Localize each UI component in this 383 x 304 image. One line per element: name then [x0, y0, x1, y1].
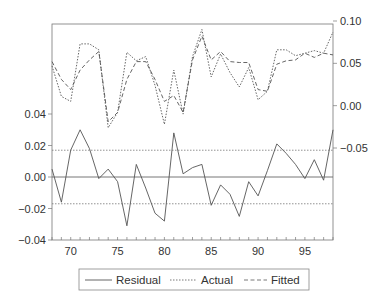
y-left-tick-label: −0.04 [18, 234, 46, 246]
x-tick-label: 95 [299, 245, 311, 257]
x-tick-label: 70 [65, 245, 77, 257]
y-right-tick-label: 0.05 [340, 57, 361, 69]
legend-fitted-label: Fitted [271, 274, 300, 286]
y-left-tick-label: 0.02 [25, 140, 46, 152]
x-tick-label: 90 [252, 245, 264, 257]
y-right-tick-label: 0.00 [340, 100, 361, 112]
y-left-tick-label: −0.02 [18, 203, 46, 215]
legend-actual-label: Actual [201, 274, 233, 286]
y-axis-left: 0.040.020.00−0.02−0.04 [18, 108, 52, 246]
y-right-tick-label: 0.10 [340, 15, 361, 27]
y-axis-right: 0.100.050.00−0.05 [333, 15, 368, 154]
x-tick-label: 80 [158, 245, 170, 257]
legend-residual-label: Residual [116, 274, 161, 286]
series-layer [52, 30, 333, 226]
plot-frame [52, 24, 333, 240]
residual-actual-fitted-chart: 707580859095 0.040.020.00−0.02−0.04 0.10… [0, 0, 383, 304]
y-left-tick-label: 0.04 [25, 108, 46, 120]
series-actual-line [52, 30, 333, 128]
y-right-tick-label: −0.05 [340, 142, 368, 154]
legend: Residual Actual Fitted [79, 269, 309, 290]
series-fitted-line [52, 36, 333, 122]
series-residual-line [52, 130, 333, 226]
x-tick-label: 75 [111, 245, 123, 257]
y-left-tick-label: 0.00 [25, 171, 46, 183]
x-tick-label: 85 [205, 245, 217, 257]
